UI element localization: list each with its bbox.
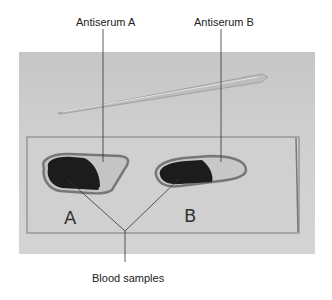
slide-mark-a: A (64, 207, 76, 228)
illustration (0, 0, 332, 300)
glass-rod (58, 74, 268, 114)
label-antiserum-a: Antiserum A (76, 16, 135, 28)
label-blood-samples: Blood samples (92, 272, 164, 284)
label-antiserum-b: Antiserum B (194, 16, 254, 28)
slide-mark-b: B (184, 205, 196, 226)
